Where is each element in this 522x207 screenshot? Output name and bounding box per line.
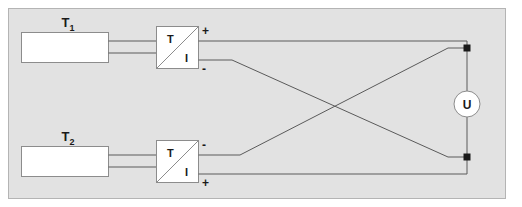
circuit-diagram: T1 T I + - T2 T I - + xyxy=(0,0,522,207)
junction-dot-lower xyxy=(464,154,471,161)
sensor-body-top xyxy=(22,33,109,63)
terminal-marker-top-upper: + xyxy=(202,24,209,38)
converter-input-label-top: T xyxy=(167,33,174,45)
terminal-marker-bottom-upper: - xyxy=(202,138,206,152)
voltmeter-label: U xyxy=(463,98,472,112)
converter-output-label-bottom: I xyxy=(185,166,188,178)
circuit-schematic-canvas: T1 T I + - T2 T I - + xyxy=(0,0,522,207)
terminal-marker-bottom-lower: + xyxy=(202,176,209,190)
sensor-label-bottom-text: T xyxy=(62,129,70,144)
sensor-label-bottom-subscript: 2 xyxy=(69,137,74,147)
junction-dot-upper xyxy=(464,45,471,52)
converter-output-label-top: I xyxy=(185,52,188,64)
terminal-marker-top-lower: - xyxy=(202,62,206,76)
sensor-body-bottom xyxy=(22,147,109,177)
sensor-label-top-text: T xyxy=(62,15,70,30)
sensor-label-top-subscript: 1 xyxy=(69,23,74,33)
converter-input-label-bottom: T xyxy=(167,147,174,159)
